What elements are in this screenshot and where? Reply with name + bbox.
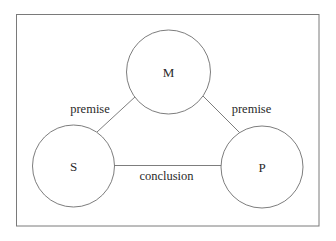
node-m-label: M [163, 65, 175, 80]
syllogism-diagram: M S P premise premise conclusion [0, 0, 336, 241]
edge-m-p-label: premise [232, 102, 272, 116]
edge-s-m-label: premise [70, 102, 110, 116]
edge-s-p-label: conclusion [139, 169, 194, 183]
node-p-label: P [258, 160, 265, 175]
node-s-label: S [70, 159, 77, 174]
